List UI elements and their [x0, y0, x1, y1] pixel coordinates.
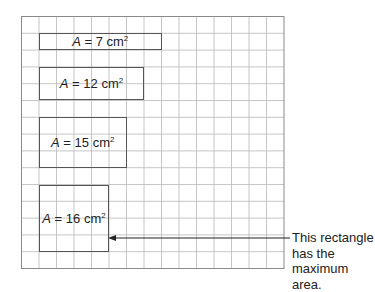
callout-line: This rectangle	[292, 230, 375, 246]
callout-line: has the	[292, 246, 375, 262]
max-area-callout: This rectangle has the maximum area.	[292, 230, 375, 292]
callout-line: maximum area.	[292, 261, 375, 292]
